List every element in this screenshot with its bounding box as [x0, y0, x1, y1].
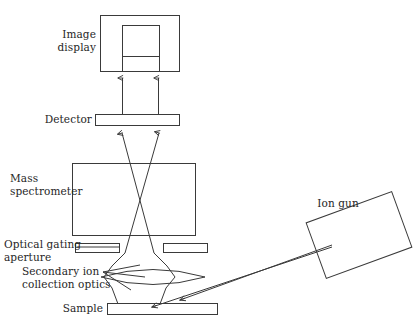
detector-bar — [96, 115, 180, 126]
label-mass-spectrometer: Mass spectrometer — [10, 172, 74, 197]
image-display-inner-screen — [123, 26, 160, 72]
label-optical-gating-aperture: Optical gating aperture — [4, 238, 82, 263]
label-ion-gun: Ion gun — [310, 197, 366, 210]
sample-bar — [108, 304, 218, 315]
collection-lens-shape — [101, 270, 205, 285]
label-image-display: Image display — [30, 28, 96, 53]
mass-spectrometer-box — [73, 164, 196, 236]
label-detector: Detector — [26, 113, 92, 126]
label-secondary-ion-collection-optics: Secondary ion collection optics — [22, 265, 108, 290]
optical-gating-aperture-left-bar — [76, 244, 120, 253]
sims-diagram: Image display Detector Mass spectrometer… — [0, 0, 416, 325]
image-display-outer-box — [101, 16, 180, 72]
optical-gating-aperture-right-bar — [164, 244, 208, 253]
label-sample: Sample — [40, 302, 103, 315]
detector-beam-left — [122, 133, 175, 304]
primary-beam-lower — [152, 247, 332, 307]
